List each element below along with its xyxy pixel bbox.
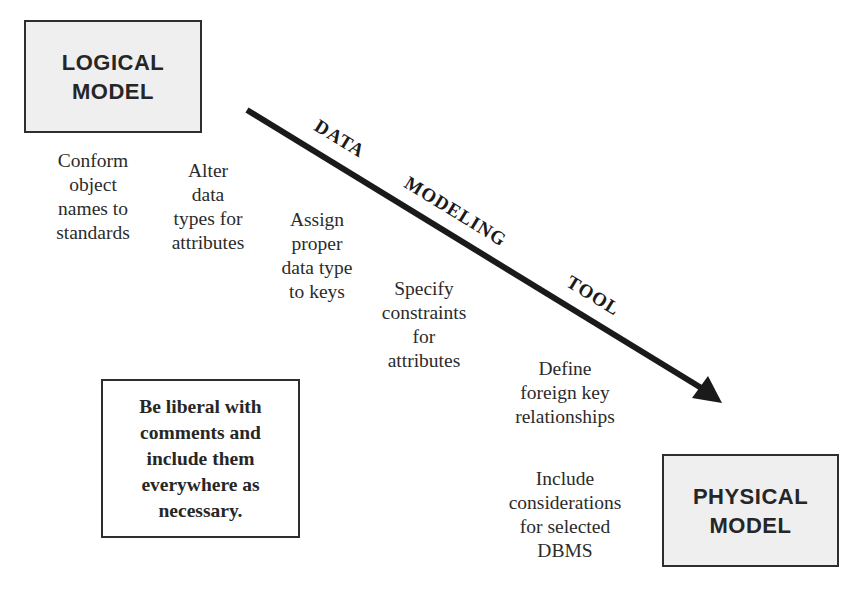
comment-note-box: Be liberal with comments and include the… xyxy=(101,379,300,538)
arrowhead-icon xyxy=(692,376,722,403)
step-line: Assign xyxy=(282,208,353,232)
step-line: constraints xyxy=(382,301,466,325)
step-alter-data-types: Alter data types for attributes xyxy=(172,159,245,255)
step-line: attributes xyxy=(382,349,466,373)
diagram-canvas: LOGICAL MODEL DATA MODELING TOOL Conform… xyxy=(0,0,862,597)
step-include-dbms-considerations: Include considerations for selected DBMS xyxy=(509,467,622,563)
step-line: for selected xyxy=(509,515,622,539)
note-line: include them xyxy=(103,446,298,472)
step-line: to keys xyxy=(282,280,353,304)
physical-model-box: PHYSICAL MODEL xyxy=(662,454,839,567)
step-conform-names: Conform object names to standards xyxy=(56,149,130,245)
step-line: relationships xyxy=(515,405,615,429)
step-line: DBMS xyxy=(509,539,622,563)
logical-model-label-line2: MODEL xyxy=(72,77,154,106)
step-line: Alter xyxy=(172,159,245,183)
step-line: Specify xyxy=(382,277,466,301)
step-define-foreign-keys: Define foreign key relationships xyxy=(515,357,615,429)
note-line: Be liberal with xyxy=(103,394,298,420)
step-line: for xyxy=(382,325,466,349)
step-line: data xyxy=(172,183,245,207)
step-line: data type xyxy=(282,256,353,280)
step-line: types for xyxy=(172,207,245,231)
step-line: standards xyxy=(56,221,130,245)
step-line: names to xyxy=(56,197,130,221)
note-line: comments and xyxy=(103,420,298,446)
physical-model-label-line1: PHYSICAL xyxy=(693,482,808,511)
physical-model-label-line2: MODEL xyxy=(710,511,792,540)
step-assign-key-types: Assign proper data type to keys xyxy=(282,208,353,304)
step-line: Conform xyxy=(56,149,130,173)
step-line: considerations xyxy=(509,491,622,515)
logical-model-label-line1: LOGICAL xyxy=(62,48,165,77)
step-line: foreign key xyxy=(515,381,615,405)
step-line: attributes xyxy=(172,231,245,255)
step-line: Include xyxy=(509,467,622,491)
step-line: proper xyxy=(282,232,353,256)
step-specify-constraints: Specify constraints for attributes xyxy=(382,277,466,373)
step-line: object xyxy=(56,173,130,197)
note-line: necessary. xyxy=(103,498,298,524)
step-line: Define xyxy=(515,357,615,381)
note-line: everywhere as xyxy=(103,472,298,498)
logical-model-box: LOGICAL MODEL xyxy=(24,20,202,133)
